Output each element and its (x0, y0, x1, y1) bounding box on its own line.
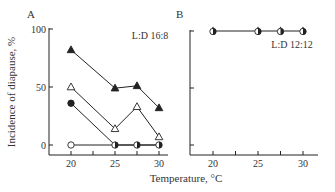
circle-filled-marker (68, 100, 74, 106)
triangle-open-marker (133, 103, 141, 110)
y-axis-label: Incidence of diapause, % (5, 37, 17, 148)
y-tick-label: 50 (36, 82, 46, 93)
series-open-circle (68, 142, 162, 148)
series-filled-triangle (67, 46, 163, 111)
series-filled-circle (68, 100, 159, 145)
circle-open-marker (68, 142, 74, 148)
triangle-filled-marker (67, 46, 75, 53)
x-tick-label: 30 (298, 158, 308, 169)
photoperiod-annotation: L:D 12:12 (271, 39, 312, 50)
x-tick-label: 20 (208, 158, 218, 169)
y-tick-label: 0 (41, 140, 46, 151)
triangle-filled-marker (133, 82, 141, 89)
series-open-triangle (67, 83, 163, 140)
x-tick-label: 25 (110, 158, 120, 169)
panel-b: B202530L:D 12:12 (176, 8, 318, 169)
y-tick-label: 100 (31, 24, 46, 35)
triangle-open-marker (67, 83, 75, 90)
x-tick-label: 30 (154, 158, 164, 169)
panel-label: A (27, 8, 35, 20)
x-axis-label: Temperature, °C (150, 172, 223, 184)
series-all-treatments (210, 27, 306, 35)
photoperiod-annotation: L:D 16:8 (132, 30, 168, 41)
panel-label: B (176, 8, 183, 20)
x-tick-label: 25 (253, 158, 263, 169)
x-tick-label: 20 (66, 158, 76, 169)
figure: A050100202530L:D 16:8 B202530L:D 12:12 I… (0, 0, 335, 192)
panel-a: A050100202530L:D 16:8 (27, 8, 168, 169)
